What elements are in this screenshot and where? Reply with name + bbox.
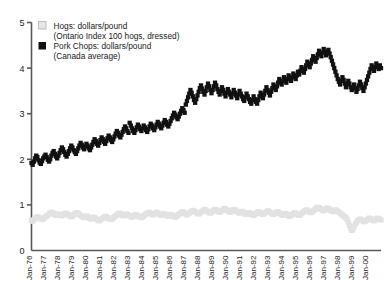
data-point [378, 217, 383, 222]
x-tick-label: Jan-77 [39, 255, 48, 280]
y-tick-label: 5 [19, 18, 24, 28]
chart-container: 012345 Jan-76Jan-77Jan-78Jan-79Jan-80Jan… [0, 0, 388, 298]
x-tick-label: Jan-82 [109, 255, 118, 280]
data-point [182, 111, 186, 115]
x-tick-label: Jan-95 [291, 255, 300, 280]
x-tick-label: Jan-88 [193, 255, 202, 280]
x-tick-label: Jan-90 [221, 255, 230, 280]
x-tick-label: Jan-81 [95, 255, 104, 280]
y-tick-label: 1 [19, 200, 24, 210]
series-pork-chops-points [29, 47, 383, 167]
price-scatter-chart: 012345 Jan-76Jan-77Jan-78Jan-79Jan-80Jan… [0, 0, 388, 298]
data-point [126, 131, 130, 135]
x-tick-label: Jan-00 [361, 255, 370, 280]
x-tick-label: Jan-79 [67, 255, 76, 280]
legend-label: Hogs: dollars/pound [54, 21, 128, 31]
series-hogs-points [29, 205, 384, 233]
x-tick-label: Jan-98 [333, 255, 342, 280]
x-tick-label: Jan-76 [25, 255, 34, 280]
y-tick-label: 3 [19, 109, 24, 119]
x-tick-label: Jan-89 [207, 255, 216, 280]
x-tick-label: Jan-97 [319, 255, 328, 280]
y-tick-label: 0 [19, 246, 24, 256]
x-axis: Jan-76Jan-77Jan-78Jan-79Jan-80Jan-81Jan-… [25, 251, 382, 280]
legend-sublabel: (Canada average) [54, 51, 121, 61]
x-tick-label: Jan-85 [151, 255, 160, 280]
x-tick-label: Jan-92 [249, 255, 258, 280]
x-tick-label: Jan-83 [123, 255, 132, 280]
x-tick-label: Jan-80 [81, 255, 90, 280]
legend-swatch-pork-chops [39, 42, 47, 50]
legend-sublabel: (Ontario Index 100 hogs, dressed) [54, 31, 180, 41]
x-tick-label: Jan-93 [263, 255, 272, 280]
chart-legend: Hogs: dollars/pound(Ontario Index 100 ho… [39, 21, 180, 62]
y-tick-label: 2 [19, 155, 24, 165]
legend-swatch-hogs [39, 22, 47, 30]
x-tick-label: Jan-96 [305, 255, 314, 280]
x-tick-label: Jan-94 [277, 255, 286, 280]
x-tick-label: Jan-91 [235, 255, 244, 280]
x-tick-label: Jan-78 [53, 255, 62, 280]
x-tick-label: Jan-99 [347, 255, 356, 280]
x-tick-label: Jan-87 [179, 255, 188, 280]
data-point [379, 66, 383, 70]
y-tick-label: 4 [19, 64, 24, 74]
x-tick-label: Jan-86 [165, 255, 174, 280]
x-tick-label: Jan-84 [137, 255, 146, 280]
legend-label: Pork Chops: dollars/pound [54, 41, 152, 51]
